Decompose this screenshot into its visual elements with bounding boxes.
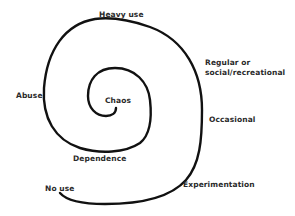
stage-label-abuse: Abuse	[16, 91, 43, 100]
stage-label-regular-line2: social/recreational	[205, 68, 285, 77]
stage-label-heavy-use: Heavy use	[99, 10, 144, 19]
stage-label-experimentation: Experimentation	[183, 180, 255, 189]
stage-label-dependence: Dependence	[73, 154, 126, 163]
stage-label-no-use: No use	[45, 184, 75, 193]
stage-label-chaos: Chaos	[105, 96, 131, 105]
stage-label-regular-line1: Regular or	[205, 58, 250, 67]
stage-label-occasional: Occasional	[209, 115, 256, 124]
